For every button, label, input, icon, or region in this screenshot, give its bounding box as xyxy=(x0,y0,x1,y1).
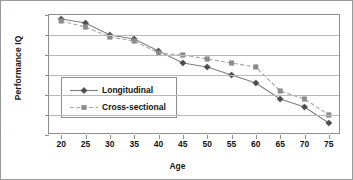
data-point-cross-sectional xyxy=(254,65,258,69)
gridline xyxy=(49,95,339,96)
data-point-longitudinal xyxy=(301,104,307,110)
data-point-longitudinal xyxy=(204,64,210,70)
plot-area: LongitudinalCross-sectional 202530354045… xyxy=(48,14,340,134)
y-axis-title: Performance IQ xyxy=(13,8,23,128)
gridline xyxy=(49,75,339,76)
data-point-cross-sectional xyxy=(278,89,282,93)
legend-marker-square-icon xyxy=(67,99,101,116)
legend-marker-diamond-icon xyxy=(67,82,101,99)
x-axis-title: Age xyxy=(1,161,353,171)
legend-label: Cross-sectional xyxy=(102,102,166,112)
y-tick-mark xyxy=(45,95,49,96)
y-tick-mark xyxy=(45,15,49,16)
y-tick-mark xyxy=(45,135,49,136)
gridline xyxy=(49,35,339,36)
data-point-cross-sectional xyxy=(229,61,233,65)
data-point-cross-sectional xyxy=(205,57,209,61)
y-tick-mark xyxy=(45,35,49,36)
chart-legend: LongitudinalCross-sectional xyxy=(61,77,177,118)
data-point-longitudinal xyxy=(326,120,332,126)
legend-item-cross-sectional[interactable]: Cross-sectional xyxy=(62,99,178,116)
gridline xyxy=(49,115,339,116)
data-point-cross-sectional xyxy=(132,39,136,43)
data-point-longitudinal xyxy=(180,60,186,66)
data-point-longitudinal xyxy=(253,80,259,86)
performance-iq-chart: Performance IQ Age LongitudinalCross-sec… xyxy=(0,0,353,180)
data-point-longitudinal xyxy=(277,96,283,102)
gridline xyxy=(49,55,339,56)
y-tick-mark xyxy=(45,75,49,76)
data-point-cross-sectional xyxy=(83,25,87,29)
data-point-cross-sectional xyxy=(59,19,63,23)
y-tick-mark xyxy=(45,55,49,56)
legend-item-longitudinal[interactable]: Longitudinal xyxy=(62,82,178,99)
legend-label: Longitudinal xyxy=(102,85,153,95)
x-tick-label: 75 xyxy=(314,139,344,149)
data-point-cross-sectional xyxy=(302,97,306,101)
y-tick-mark xyxy=(45,115,49,116)
